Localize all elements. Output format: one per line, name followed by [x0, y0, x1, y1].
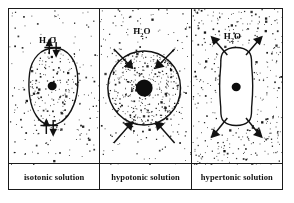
panel-hypotonic: H2O [99, 9, 190, 165]
water-label-hypertonic: H2O [224, 31, 241, 43]
panel-row: H2O [9, 9, 282, 165]
label-hypertonic: hypertonic solution [191, 164, 282, 189]
water-label-isotonic: H2O [39, 35, 56, 47]
label-isotonic: isotonic solution [9, 164, 99, 189]
label-hypotonic: hypotonic solution [99, 164, 190, 189]
label-band: isotonic solution hypotonic solution hyp… [9, 163, 282, 189]
osmosis-figure: H2O [8, 8, 283, 190]
water-label-hypotonic: H2O [133, 26, 150, 38]
panel-hypertonic: H2O [191, 9, 282, 165]
panel-isotonic: H2O [9, 9, 99, 165]
stipple-field-isotonic [9, 9, 99, 165]
